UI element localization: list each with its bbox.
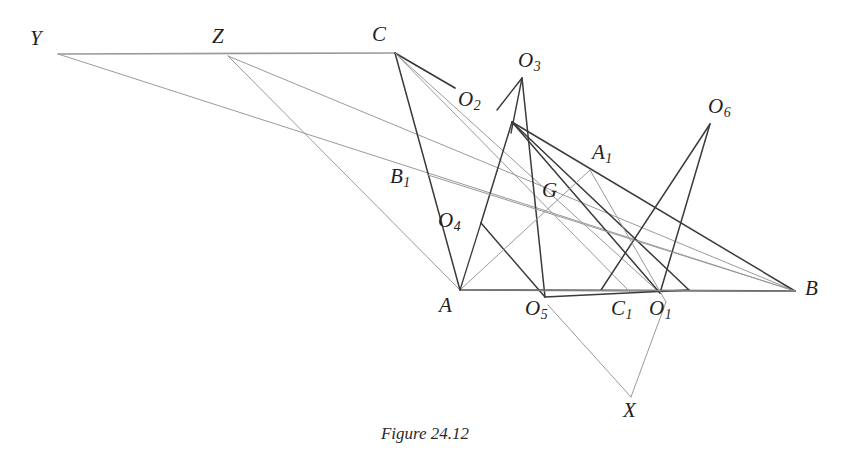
vertex-label-Z: Z [212,26,224,47]
vertex-label-G: G [542,180,557,201]
segment-O6-O1 [660,124,710,293]
figure-caption: Figure 24.12 [0,424,850,444]
vertex-label-C1: C1 [611,298,632,322]
segment-C-O1 [395,53,660,293]
segment-quad-O4-O5 [481,223,545,297]
segment-O6-left-leg [601,124,710,290]
segment-A1-G-extend [590,170,666,302]
vertex-label-C: C [372,24,386,45]
vertex-label-B1: B1 [390,166,410,190]
vertex-label-O1: O1 [649,298,672,322]
segment-quad-top-O4 [481,122,512,223]
vertex-label-O6: O6 [708,96,731,120]
segment-C-C1 [395,53,630,292]
segment-A-A1-B [460,170,590,290]
vertex-label-O2: O2 [458,89,481,113]
vertex-label-Y: Y [30,28,42,49]
figure-container: Y Z C O3 O2 O6 A1 B1 G O4 A O5 C1 O1 B X… [0,0,850,466]
segment-O2-B [512,122,795,291]
segments-layer [58,53,795,397]
segment-Y-B [58,54,795,291]
vertex-label-A: A [439,295,452,316]
segment-C-O2-stub [395,53,455,88]
vertex-label-B: B [805,278,818,299]
vertex-label-O4: O4 [438,210,461,234]
vertex-label-X: X [623,400,636,421]
geometry-diagram [0,0,850,466]
vertex-label-O3: O3 [518,50,541,74]
vertex-label-O5: O5 [525,298,548,322]
segment-Y-C-baseline-top [58,53,395,54]
segment-Z-A [228,56,460,290]
vertex-label-A1: A1 [592,142,612,166]
